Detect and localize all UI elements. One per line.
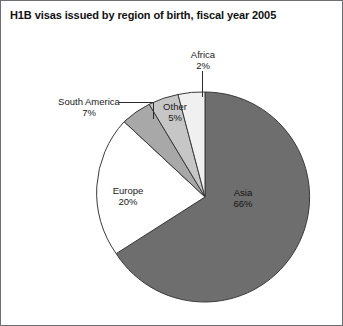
slice-label-europe-name: Europe — [113, 185, 144, 196]
slice-label-other-value: 5% — [153, 112, 197, 123]
slice-label-europe-value: 20% — [98, 196, 158, 207]
slice-label-asia-value: 66% — [213, 198, 273, 209]
slice-label-south-america-value: 7% — [41, 107, 137, 118]
slice-label-other: Other 5% — [153, 101, 197, 123]
pie-chart-graphic — [1, 1, 343, 326]
slice-label-south-america-name: South America — [58, 96, 120, 107]
slice-label-africa-name: Africa — [191, 49, 215, 60]
slice-label-south-america: South America 7% — [41, 96, 137, 118]
slice-label-africa: Africa 2% — [177, 49, 229, 71]
chart-figure: H1B visas issued by region of birth, fis… — [0, 0, 343, 326]
slice-label-europe: Europe 20% — [98, 185, 158, 207]
slice-label-asia-name: Asia — [234, 187, 252, 198]
slice-label-other-name: Other — [163, 101, 187, 112]
slice-label-africa-value: 2% — [177, 60, 229, 71]
slice-label-asia: Asia 66% — [213, 187, 273, 209]
